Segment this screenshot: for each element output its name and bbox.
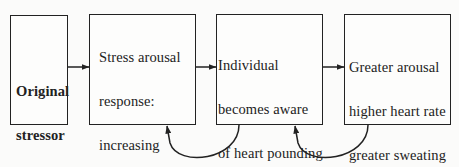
feedback-curve-4-to-3 bbox=[295, 125, 368, 158]
feedback-curve-3-to-2 bbox=[167, 125, 239, 158]
connectors bbox=[0, 0, 459, 167]
